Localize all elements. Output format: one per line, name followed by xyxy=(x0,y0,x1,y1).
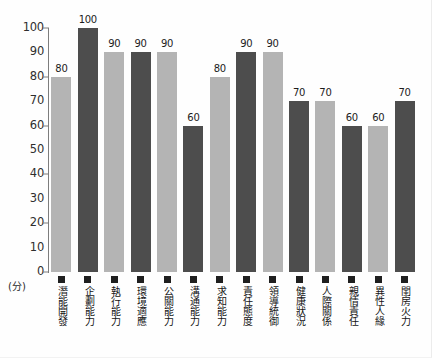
y-tick-label: 70 xyxy=(16,95,44,107)
category-text: 親情責任 xyxy=(347,286,358,326)
bar[interactable] xyxy=(368,126,388,272)
category-marker-icon xyxy=(164,276,171,283)
x-category-label: 潛能開發 xyxy=(48,276,74,330)
bar-slot: 60 xyxy=(339,28,365,272)
category-marker-icon xyxy=(296,276,303,283)
bar[interactable] xyxy=(342,126,362,272)
plot-area: 80100909090608090907070606070 xyxy=(48,28,418,272)
bar-slot: 60 xyxy=(365,28,391,272)
category-text: 溝通能力 xyxy=(188,286,199,326)
category-text: 企劃能力 xyxy=(83,286,94,326)
bar-value-label: 80 xyxy=(207,64,233,74)
x-category-label: 公關能力 xyxy=(154,276,180,330)
x-category-label: 人際關係 xyxy=(312,276,338,330)
category-text: 公關能力 xyxy=(162,286,173,326)
x-category-label: 企劃能力 xyxy=(75,276,101,330)
x-category-label: 健康狀況 xyxy=(286,276,312,330)
bar-value-label: 90 xyxy=(101,39,127,49)
bar-slot: 90 xyxy=(260,28,286,272)
category-text: 責任態度 xyxy=(241,286,252,326)
x-category-label: 閨房火力 xyxy=(392,276,418,330)
category-text: 執行能力 xyxy=(109,286,120,326)
bar-slot: 90 xyxy=(128,28,154,272)
bar[interactable] xyxy=(289,101,309,272)
bar-value-label: 90 xyxy=(128,39,154,49)
bar-slot: 100 xyxy=(75,28,101,272)
category-marker-icon xyxy=(190,276,197,283)
bar[interactable] xyxy=(157,52,177,272)
category-text: 潛能開發 xyxy=(56,286,67,326)
x-category-label: 求知能力 xyxy=(207,276,233,330)
category-marker-icon xyxy=(269,276,276,283)
bar-value-label: 60 xyxy=(180,113,206,123)
bar-slot: 90 xyxy=(154,28,180,272)
bar[interactable] xyxy=(236,52,256,272)
bar-value-label: 90 xyxy=(154,39,180,49)
category-text: 閨房火力 xyxy=(399,286,410,326)
category-marker-icon xyxy=(401,276,408,283)
x-category-label: 環境適應 xyxy=(128,276,154,330)
x-category-label: 責任態度 xyxy=(233,276,259,330)
y-tick-label: 50 xyxy=(16,144,44,156)
bar[interactable] xyxy=(395,101,415,272)
category-marker-icon xyxy=(58,276,65,283)
bar-slot: 70 xyxy=(312,28,338,272)
y-axis-unit-label: (分) xyxy=(8,278,26,293)
x-category-label: 異性人緣 xyxy=(365,276,391,330)
bar[interactable] xyxy=(210,77,230,272)
category-marker-icon xyxy=(375,276,382,283)
bar-slot: 70 xyxy=(286,28,312,272)
bar-slot: 80 xyxy=(207,28,233,272)
category-text: 異性人緣 xyxy=(373,286,384,326)
category-marker-icon xyxy=(216,276,223,283)
bar[interactable] xyxy=(51,77,71,272)
bar-slot: 90 xyxy=(101,28,127,272)
bar-value-label: 70 xyxy=(392,88,418,98)
category-text: 求知能力 xyxy=(215,286,226,326)
category-marker-icon xyxy=(348,276,355,283)
y-tick-label: 10 xyxy=(16,242,44,254)
y-tick-label: 80 xyxy=(16,71,44,83)
bar[interactable] xyxy=(78,28,98,272)
bar-value-label: 70 xyxy=(312,88,338,98)
category-text: 環境適應 xyxy=(135,286,146,326)
bar[interactable] xyxy=(263,52,283,272)
y-tick-label: 30 xyxy=(16,193,44,205)
y-tick-label: 60 xyxy=(16,120,44,132)
bar-value-label: 70 xyxy=(286,88,312,98)
category-marker-icon xyxy=(322,276,329,283)
category-text: 領導統御 xyxy=(267,286,278,326)
bar-value-label: 60 xyxy=(365,113,391,123)
x-axis-category-labels: 潛能開發企劃能力執行能力環境適應公關能力溝通能力求知能力責任態度領導統御健康狀況… xyxy=(48,276,418,358)
category-marker-icon xyxy=(137,276,144,283)
x-category-label: 領導統御 xyxy=(260,276,286,330)
bar[interactable] xyxy=(315,101,335,272)
y-tick-label: 100 xyxy=(16,22,44,34)
y-tick-label: 40 xyxy=(16,169,44,181)
bar-value-label: 80 xyxy=(48,64,74,74)
category-text: 人際關係 xyxy=(320,286,331,326)
y-tick-label: 90 xyxy=(16,47,44,59)
x-category-label: 親情責任 xyxy=(339,276,365,330)
bar-slot: 80 xyxy=(48,28,74,272)
bar[interactable] xyxy=(104,52,124,272)
bar-value-label: 90 xyxy=(233,39,259,49)
x-category-label: 溝通能力 xyxy=(180,276,206,330)
bar-value-label: 90 xyxy=(260,39,286,49)
x-category-label: 執行能力 xyxy=(101,276,127,330)
bar-chart: 1009080706050403020100 (分) 8010090909060… xyxy=(0,0,432,358)
bar-value-label: 60 xyxy=(339,113,365,123)
category-text: 健康狀況 xyxy=(294,286,305,326)
category-marker-icon xyxy=(243,276,250,283)
y-tick-label: 20 xyxy=(16,217,44,229)
category-marker-icon xyxy=(111,276,118,283)
bar-slot: 90 xyxy=(233,28,259,272)
bar[interactable] xyxy=(131,52,151,272)
bar-slot: 70 xyxy=(392,28,418,272)
y-tick-label: 0 xyxy=(16,266,44,278)
bar-slot: 60 xyxy=(180,28,206,272)
category-marker-icon xyxy=(84,276,91,283)
bar[interactable] xyxy=(183,126,203,272)
y-axis-tick-labels: 1009080706050403020100 xyxy=(10,28,44,273)
bar-value-label: 100 xyxy=(75,15,101,25)
